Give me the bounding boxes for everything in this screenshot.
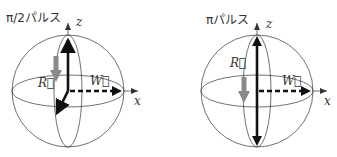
bloch-sphere-diagram: [0, 0, 168, 157]
W-arrowhead: [112, 86, 122, 96]
state-vector-front: [57, 91, 68, 113]
W-vector-label: W⃗: [282, 74, 302, 88]
W-vector-label: W⃗: [90, 74, 110, 88]
z-axis-label: z: [76, 15, 82, 29]
x-axis-label: x: [134, 94, 141, 108]
panel-pi-half-pulse: π/2パルス z x R⃗ W⃗: [0, 0, 168, 157]
R-vector-label: R⃗: [38, 76, 54, 90]
W-arrowhead: [301, 86, 311, 96]
panel-pi-pulse: πパルス z x R⃗ W⃗: [170, 0, 337, 157]
R-vector-label: R⃗: [230, 56, 246, 70]
arrowhead-up: [252, 36, 262, 46]
bloch-sphere-diagram: [170, 0, 337, 157]
arrowhead-down: [252, 136, 262, 146]
x-axis-label: x: [324, 94, 331, 108]
R-arrowhead: [238, 91, 250, 103]
z-axis-label: z: [266, 17, 272, 31]
